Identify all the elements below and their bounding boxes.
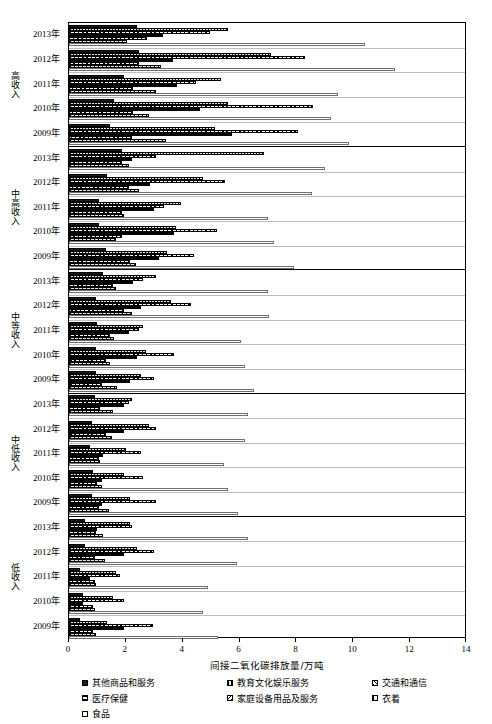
income-group-block — [69, 393, 465, 516]
y-tick-label-year: 2013年 — [33, 399, 60, 409]
legend-swatch-icon — [372, 695, 378, 701]
x-axis-tick-label: 2 — [123, 644, 128, 654]
x-axis-tick-label: 4 — [179, 644, 184, 654]
bar — [69, 488, 228, 491]
legend-label: 家庭设备用品及服务 — [237, 692, 318, 705]
y-tick-label-year: 2010年 — [33, 473, 60, 483]
y-axis-group-label: 中等收入 — [10, 312, 23, 348]
bar — [69, 68, 395, 71]
chart-page: 2013年2012年2011年2010年2009年高收入2013年2012年20… — [0, 0, 492, 724]
x-axis-tick — [182, 638, 183, 642]
year-bar-cluster — [69, 418, 465, 443]
x-axis-title: 间接二氧化碳排放量/万吨 — [68, 658, 466, 672]
income-group-block — [69, 146, 465, 269]
bar — [69, 340, 241, 343]
y-tick-label-year: 2012年 — [33, 424, 60, 434]
year-bar-cluster — [69, 566, 465, 591]
y-tick-label-year: 2010年 — [33, 103, 60, 113]
bar — [69, 93, 338, 96]
bar — [69, 439, 245, 442]
bar — [69, 167, 325, 170]
legend-swatch-icon — [82, 695, 88, 701]
bar — [69, 315, 269, 318]
y-tick-label-year: 2011年 — [33, 202, 60, 212]
x-axis-tick — [409, 638, 410, 642]
x-axis-tick — [239, 638, 240, 642]
x-axis-tick — [465, 638, 466, 642]
year-bar-cluster — [69, 72, 465, 97]
year-bar-cluster — [69, 172, 465, 197]
y-tick-label-year: 2010年 — [33, 596, 60, 606]
legend-label: 食品 — [92, 707, 110, 720]
x-axis-tick-label: 14 — [462, 644, 471, 654]
y-tick-label-year: 2012年 — [33, 177, 60, 187]
legend-item: 家庭设备用品及服务 — [227, 692, 372, 705]
x-axis-tick-label: 0 — [66, 644, 71, 654]
y-tick-label-year: 2013年 — [33, 522, 60, 532]
bar — [69, 611, 203, 614]
year-bar-cluster — [69, 320, 465, 345]
legend-row: 医疗保健家庭设备用品及服务衣着 — [68, 692, 468, 705]
plot-area — [68, 22, 466, 638]
income-group-block — [69, 516, 465, 639]
legend-swatch-icon — [82, 711, 88, 717]
bar — [69, 463, 224, 466]
year-bar-cluster — [69, 467, 465, 492]
x-axis-tick-label: 8 — [293, 644, 298, 654]
bar — [69, 217, 268, 220]
y-tick-label-year: 2009年 — [33, 621, 60, 631]
y-tick-label-year: 2009年 — [33, 497, 60, 507]
chart-legend: 其他商品和服务教育文化娱乐服务交通和通信医疗保健家庭设备用品及服务衣着食品 — [68, 676, 468, 723]
y-tick-label-year: 2013年 — [33, 276, 60, 286]
bar — [69, 365, 245, 368]
year-bar-cluster — [69, 122, 465, 147]
bar — [69, 142, 349, 145]
y-tick-label-year: 2011年 — [33, 79, 60, 89]
y-tick-label-year: 2010年 — [33, 226, 60, 236]
bar — [69, 43, 365, 46]
year-bar-cluster — [69, 147, 465, 172]
legend-label: 其他商品和服务 — [92, 676, 155, 689]
bar — [69, 241, 274, 244]
bars-container — [69, 23, 465, 637]
legend-item: 交通和通信 — [372, 676, 469, 689]
y-axis-labels: 2013年2012年2011年2010年2009年高收入2013年2012年20… — [0, 22, 64, 638]
bar — [69, 413, 248, 416]
year-bar-cluster — [69, 369, 465, 394]
year-bar-cluster — [69, 23, 465, 48]
year-bar-cluster — [69, 394, 465, 419]
y-tick-label-year: 2010年 — [33, 350, 60, 360]
legend-swatch-icon — [227, 695, 233, 701]
year-bar-cluster — [69, 443, 465, 468]
y-tick-label-year: 2011年 — [33, 448, 60, 458]
x-axis: 02468101214 — [68, 638, 466, 639]
x-axis-tick-label: 12 — [405, 644, 414, 654]
y-tick-label-year: 2012年 — [33, 547, 60, 557]
year-bar-cluster — [69, 541, 465, 566]
x-axis-tick-label: 6 — [236, 644, 241, 654]
legend-label: 衣着 — [382, 692, 400, 705]
legend-row: 其他商品和服务教育文化娱乐服务交通和通信 — [68, 676, 468, 689]
year-bar-cluster — [69, 48, 465, 73]
legend-label: 教育文化娱乐服务 — [237, 676, 309, 689]
y-tick-label-year: 2013年 — [33, 153, 60, 163]
year-bar-cluster — [69, 246, 465, 271]
x-axis-tick — [125, 638, 126, 642]
bar — [69, 192, 312, 195]
year-bar-cluster — [69, 196, 465, 221]
bar — [69, 117, 331, 120]
y-axis-group-label: 低收入 — [10, 563, 23, 590]
legend-row: 食品 — [68, 707, 468, 720]
year-bar-cluster — [69, 492, 465, 517]
y-tick-label-year: 2009年 — [33, 374, 60, 384]
x-axis-tick — [352, 638, 353, 642]
x-axis-tick — [68, 638, 69, 642]
legend-item: 其他商品和服务 — [68, 676, 227, 689]
legend-item: 医疗保健 — [68, 692, 227, 705]
legend-swatch-icon — [82, 680, 88, 686]
x-axis-tick-label: 10 — [348, 644, 357, 654]
year-bar-cluster — [69, 295, 465, 320]
legend-swatch-icon — [227, 680, 233, 686]
bar — [69, 586, 208, 589]
y-tick-label-year: 2009年 — [33, 251, 60, 261]
